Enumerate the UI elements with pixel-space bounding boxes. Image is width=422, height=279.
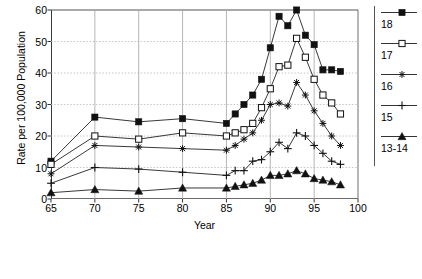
- datapoint-16-85: [223, 147, 230, 154]
- datapoint-17-80: [179, 130, 185, 136]
- x-tick-label-70: 70: [89, 203, 101, 214]
- marker-filled-triangle: [398, 132, 406, 139]
- legend-label-16: 16: [381, 80, 422, 92]
- datapoint-18-96: [320, 67, 326, 73]
- y-tick-label-60: 60: [35, 5, 47, 15]
- legend: 1817161513-14: [374, 6, 422, 166]
- datapoint-16-89: [258, 117, 265, 124]
- datapoint-17-97: [329, 100, 335, 106]
- datapoint-17-91: [276, 64, 282, 70]
- datapoint-18-88: [250, 92, 256, 98]
- legend-marker-plus-icon: [394, 99, 410, 112]
- marker-filled-square: [399, 9, 405, 15]
- y-tick-label-10: 10: [35, 163, 47, 173]
- legend-item-15[interactable]: 15: [381, 99, 422, 130]
- datapoint-17-85: [223, 133, 229, 139]
- marker-asterisk: [399, 71, 406, 78]
- datapoint-15-86: [231, 167, 239, 175]
- datapoint-13-14-89: [257, 176, 265, 183]
- legend-symbol-plus-icon: [381, 99, 417, 112]
- datapoint-16-86: [232, 142, 239, 149]
- x-tick-label-65: 65: [45, 203, 57, 214]
- datapoint-18-75: [136, 119, 142, 125]
- legend-marker-filled-square-icon: [394, 6, 410, 19]
- x-tick-label-90: 90: [264, 203, 276, 214]
- x-tick-label-100: 100: [349, 203, 367, 214]
- datapoint-13-14-98: [336, 181, 344, 188]
- legend-item-16[interactable]: 16: [381, 68, 422, 99]
- x-axis-tick-labels: 65707580859095100: [51, 203, 358, 217]
- datapoint-17-94: [302, 54, 308, 60]
- legend-label-18: 18: [381, 18, 422, 30]
- x-tick-label-95: 95: [308, 203, 320, 214]
- datapoint-17-90: [267, 86, 273, 92]
- datapoint-18-86: [232, 111, 238, 117]
- datapoint-18-70: [92, 114, 98, 120]
- legend-label-15: 15: [381, 111, 422, 123]
- datapoint-18-89: [258, 76, 264, 82]
- marker-open-square: [399, 40, 405, 46]
- datapoint-13-14-88: [249, 179, 257, 186]
- datapoint-15-98: [337, 160, 345, 168]
- datapoint-13-14-94: [301, 170, 309, 177]
- datapoint-15-93: [293, 129, 301, 137]
- datapoint-13-14-90: [266, 171, 274, 178]
- datapoint-18-94: [302, 32, 308, 38]
- datapoint-16-98: [337, 142, 344, 149]
- legend-item-13-14[interactable]: 13-14: [381, 130, 422, 161]
- datapoint-17-86: [232, 130, 238, 136]
- datapoint-16-93: [293, 79, 300, 86]
- legend-symbol-filled-triangle-icon: [381, 130, 417, 143]
- datapoint-18-80: [179, 116, 185, 122]
- datapoint-16-90: [267, 101, 274, 108]
- datapoint-17-88: [250, 120, 256, 126]
- datapoint-15-92: [284, 145, 292, 153]
- datapoint-16-94: [302, 92, 309, 99]
- datapoint-18-92: [285, 23, 291, 29]
- datapoint-17-98: [337, 111, 343, 117]
- y-tick-label-40: 40: [35, 68, 47, 78]
- series-line-16: [51, 82, 340, 173]
- datapoint-16-87: [241, 136, 248, 143]
- datapoint-16-88: [249, 129, 256, 136]
- datapoint-18-87: [241, 101, 247, 107]
- series-line-15: [51, 133, 340, 183]
- y-axis-title: Rate per 100,000 Population: [15, 23, 27, 173]
- y-tick-label-50: 50: [35, 37, 47, 47]
- datapoint-17-70: [92, 133, 98, 139]
- legend-item-18[interactable]: 18: [381, 6, 422, 37]
- datapoint-18-91: [276, 13, 282, 19]
- plot-area: [51, 10, 358, 199]
- datapoint-18-93: [294, 7, 300, 13]
- x-tick-label-80: 80: [177, 203, 189, 214]
- datapoint-15-80: [179, 168, 187, 176]
- gridlines: [51, 10, 358, 199]
- y-tick-label-20: 20: [35, 131, 47, 141]
- legend-label-13-14: 13-14: [381, 142, 422, 154]
- datapoint-18-98: [337, 68, 343, 74]
- chart-canvas: [51, 10, 358, 199]
- datapoint-15-65: [47, 179, 55, 187]
- datapoint-16-65: [48, 170, 55, 177]
- chart-figure: 0102030405060 65707580859095100 Year Rat…: [0, 0, 422, 279]
- datapoint-13-14-70: [91, 186, 99, 193]
- legend-label-17: 17: [381, 49, 422, 61]
- datapoint-16-70: [91, 142, 98, 149]
- datapoint-18-97: [329, 67, 335, 73]
- x-tick-label-85: 85: [221, 203, 233, 214]
- series-16: [48, 79, 344, 177]
- datapoint-13-14-95: [310, 174, 318, 181]
- marker-plus: [398, 102, 406, 110]
- legend-symbol-asterisk-icon: [381, 68, 417, 81]
- datapoint-17-75: [136, 136, 142, 142]
- datapoint-15-75: [135, 165, 143, 173]
- datapoint-17-65: [48, 161, 54, 167]
- legend-item-17[interactable]: 17: [381, 37, 422, 68]
- datapoint-16-92: [284, 103, 291, 110]
- datapoint-18-95: [311, 42, 317, 48]
- x-tick-label-75: 75: [133, 203, 145, 214]
- datapoint-16-80: [179, 145, 186, 152]
- datapoint-16-97: [328, 133, 335, 140]
- legend-symbol-filled-square-icon: [381, 6, 417, 19]
- datapoint-16-96: [319, 120, 326, 127]
